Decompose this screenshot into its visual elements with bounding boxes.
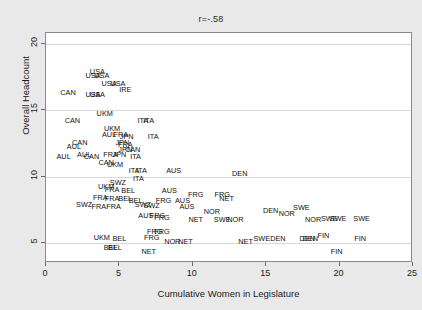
data-point-label: FRA [92, 204, 107, 211]
data-point-label: DEN [303, 235, 318, 242]
data-point-label: SWE [330, 215, 347, 222]
y-axis-tick [41, 176, 45, 177]
data-point-label: FIN [354, 235, 366, 242]
data-point-label: FRA [106, 204, 121, 211]
data-point-label: FRG [144, 234, 159, 241]
data-point-label: NET [178, 238, 193, 245]
x-axis-tick [192, 262, 193, 266]
data-point-label: SWZ [144, 202, 160, 209]
data-point-label: SWE [253, 235, 270, 242]
x-axis-tick-label: 20 [327, 268, 351, 278]
x-axis-tick-label: 5 [106, 268, 130, 278]
data-point-label: USA [90, 92, 105, 99]
data-point-label: FRG [154, 214, 169, 221]
y-axis-tick-label: 10 [29, 167, 39, 183]
data-point-label: ITA [143, 117, 154, 124]
data-point-label: NET [219, 196, 234, 203]
x-axis-tick-label: 25 [400, 268, 422, 278]
x-axis-tick [118, 262, 119, 266]
data-point-label: FIN [318, 233, 330, 240]
y-axis-tick-label: 20 [29, 34, 39, 50]
data-point-label: UKM [94, 234, 110, 241]
data-point-label: NET [238, 238, 253, 245]
data-point-label: SWE [293, 205, 310, 212]
data-point-label: FIN [331, 249, 343, 256]
x-axis-tick [412, 262, 413, 266]
x-axis-tick-label: 0 [33, 268, 57, 278]
data-point-label: ITA [148, 133, 159, 140]
y-axis-tick [41, 43, 45, 44]
data-point-label: FRG [188, 192, 203, 199]
data-point-label: SWE [353, 215, 370, 222]
data-point-label: DEN [263, 207, 278, 214]
data-point-label: JPN [112, 152, 126, 159]
y-axis-tick [41, 109, 45, 110]
x-axis-tick-label: 10 [180, 268, 204, 278]
data-point-label: CAN [60, 89, 75, 96]
x-axis-title: Cumulative Women in Legislature [45, 288, 412, 299]
y-axis-tick [41, 242, 45, 243]
data-point-label: AUS [166, 168, 181, 175]
data-point-label: CAN [84, 153, 99, 160]
data-point-label: UKM [107, 161, 123, 168]
x-axis-tick [265, 262, 266, 266]
data-point-label: BEL [108, 245, 122, 252]
data-point-label: NET [141, 249, 156, 256]
data-point-label: AUL [57, 153, 71, 160]
data-point-label: DEN [232, 170, 247, 177]
data-point-label: BEL [112, 235, 126, 242]
data-point-label: NOR [305, 217, 321, 224]
chart-title: r=-.58 [0, 14, 422, 24]
y-axis-tick-label: 15 [29, 100, 39, 116]
gridline-y [46, 177, 411, 178]
data-point-label: NET [188, 217, 203, 224]
plot-area: USAUSAUSAUSAUSAIRECANUSAUSAUKMCANITAITAU… [45, 32, 412, 262]
x-axis-tick-label: 15 [253, 268, 277, 278]
data-point-label: CAN [65, 117, 80, 124]
y-axis-tick-label: 5 [29, 233, 39, 249]
x-axis-tick [45, 262, 46, 266]
data-point-label: DEN [270, 235, 285, 242]
gridline-y [46, 44, 411, 45]
chart-screenshot: r=-.58 USAUSAUSAUSAUSAIRECANUSAUSAUKMCAN… [0, 0, 422, 310]
data-point-label: UKM [97, 110, 113, 117]
data-point-label: NOR [227, 217, 243, 224]
data-point-label: ITA [133, 176, 144, 183]
x-axis-tick [339, 262, 340, 266]
data-point-label: IRE [119, 87, 131, 94]
data-point-label: SWZ [76, 201, 92, 208]
data-point-label: ITA [130, 153, 141, 160]
data-point-label: AUS [179, 204, 194, 211]
data-point-label: AUS [162, 188, 177, 195]
